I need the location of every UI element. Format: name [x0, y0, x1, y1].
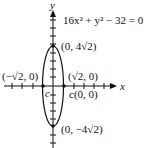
ellipse-diagram: y x 16x² + y² − 32 = 0 (0, 4√2) (0, −4√2… — [0, 0, 159, 148]
equation-label: 16x² + y² − 32 = 0 — [63, 14, 144, 26]
x-axis-label: x — [119, 80, 125, 92]
bottom-vertex-point — [51, 124, 55, 128]
x-axis-arrow-icon — [110, 83, 117, 89]
top-vertex-point — [51, 44, 55, 48]
y-axis-label: y — [49, 0, 55, 11]
center-label: c(0, 0) — [69, 88, 98, 101]
left-point-label: (−√2, 0) — [2, 70, 38, 83]
y-axis-arrow-icon — [50, 10, 56, 17]
right-point-label: (√2, 0) — [68, 70, 98, 83]
bottom-vertex-label: (0, −4√2) — [61, 123, 103, 136]
right-point — [62, 84, 66, 88]
top-vertex-label: (0, 4√2) — [61, 40, 97, 53]
center-marker-label: c — [45, 87, 50, 99]
